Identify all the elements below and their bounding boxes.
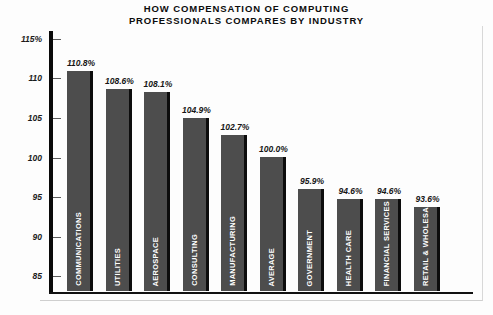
bar-group: MANUFACTURING102.7% <box>221 29 247 291</box>
y-axis-tick <box>53 118 61 119</box>
y-axis-tick <box>53 158 61 159</box>
bar-group: RETAIL & WHOLESALE93.6% <box>414 29 440 291</box>
bar-value-label: 94.6% <box>329 186 373 196</box>
bar-value-label: 110.8% <box>59 58 103 68</box>
bar-category-label: RETAIL & WHOLESALE <box>414 197 437 286</box>
bar-value-label: 93.6% <box>406 194 450 204</box>
bar-category-label: FINANCIAL SERVICES <box>375 201 398 286</box>
bar-value-label: 102.7% <box>213 122 257 132</box>
x-axis-baseline <box>49 292 473 294</box>
bar-group: HEALTH CARE94.6% <box>337 29 363 291</box>
bar-value-label: 108.1% <box>136 79 180 89</box>
bar-group: FINANCIAL SERVICES94.6% <box>375 29 401 291</box>
bar-value-label: 95.9% <box>290 176 334 186</box>
y-axis-tick-label: 95 <box>0 192 42 202</box>
bar-group: AEROSPACE108.1% <box>144 29 170 291</box>
bar-category-label: GOVERNMENT <box>298 230 321 286</box>
bar-category-label: AVERAGE <box>260 248 283 286</box>
bar-group: AVERAGE100.0% <box>260 29 286 291</box>
y-axis-tick-label: 110 <box>0 73 42 83</box>
bar[interactable]: FINANCIAL SERVICES <box>375 199 401 291</box>
bar[interactable]: MANUFACTURING <box>221 135 247 291</box>
y-axis-tick <box>53 39 61 40</box>
plot-area: COMMUNICATIONS110.8%UTILITIES108.6%AEROS… <box>49 31 473 293</box>
y-axis-tick <box>53 78 61 79</box>
bar-value-label: 94.6% <box>367 186 411 196</box>
bar-group: GOVERNMENT95.9% <box>298 29 324 291</box>
bar[interactable]: HEALTH CARE <box>337 199 363 291</box>
bar[interactable]: GOVERNMENT <box>298 189 324 291</box>
bar-category-label: UTILITIES <box>106 248 129 286</box>
bar[interactable]: COMMUNICATIONS <box>67 71 93 291</box>
bar-category-label: CONSULTING <box>183 234 206 286</box>
y-axis-tick-label: 90 <box>0 232 42 242</box>
y-axis-tick-label: 115% <box>0 34 42 44</box>
bar-category-label: HEALTH CARE <box>337 230 360 286</box>
bar[interactable]: RETAIL & WHOLESALE <box>414 207 440 291</box>
bar-category-label: MANUFACTURING <box>221 216 244 286</box>
y-axis-tick-labels: 115%110105100959085 <box>0 31 45 293</box>
bar-group: COMMUNICATIONS110.8% <box>67 29 93 291</box>
bar-category-label: COMMUNICATIONS <box>67 212 90 286</box>
bar-group: UTILITIES108.6% <box>106 29 132 291</box>
y-axis-tick-label: 100 <box>0 153 42 163</box>
bar-group: CONSULTING104.9% <box>183 29 209 291</box>
y-axis-tick-label: 105 <box>0 113 42 123</box>
y-axis <box>49 31 53 293</box>
chart-title: HOW COMPENSATION OF COMPUTING PROFESSION… <box>0 3 493 26</box>
bar-value-label: 104.9% <box>175 105 219 115</box>
bar[interactable]: AVERAGE <box>260 157 286 291</box>
chart-container: HOW COMPENSATION OF COMPUTING PROFESSION… <box>0 0 493 315</box>
bar-value-label: 108.6% <box>98 76 142 86</box>
bar[interactable]: UTILITIES <box>106 89 132 291</box>
bar[interactable]: AEROSPACE <box>144 92 170 291</box>
y-axis-tick <box>53 276 61 277</box>
y-axis-tick-label: 85 <box>0 271 42 281</box>
y-axis-tick <box>53 237 61 238</box>
bar-value-label: 100.0% <box>252 144 296 154</box>
bar-category-label: AEROSPACE <box>144 237 167 286</box>
y-axis-tick <box>53 197 61 198</box>
bar[interactable]: CONSULTING <box>183 118 209 291</box>
